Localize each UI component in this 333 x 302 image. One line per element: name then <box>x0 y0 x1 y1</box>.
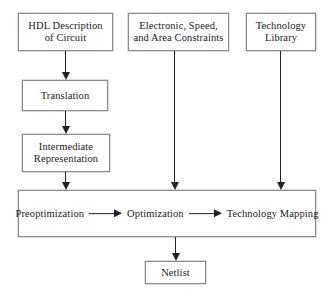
pipeline-stage-optimization: Optimization <box>126 208 185 220</box>
right-arrow-icon <box>89 209 122 218</box>
node-netlist-label: Netlist <box>158 267 193 279</box>
node-intermediate-representation: Intermediate Representation <box>22 134 110 172</box>
pipeline-stage-row: Preoptimization Optimization Technology … <box>19 208 315 220</box>
node-constraints-label: Electronic, Speed, and Area Constraints <box>130 20 226 44</box>
node-optimization-pipeline: Preoptimization Optimization Technology … <box>18 190 316 237</box>
node-hdl-description: HDL Description of Circuit <box>18 13 113 51</box>
node-netlist: Netlist <box>145 261 206 284</box>
pipeline-stage-preoptimization: Preoptimization <box>15 208 86 220</box>
node-constraints: Electronic, Speed, and Area Constraints <box>128 13 229 51</box>
flowchart-canvas: HDL Description of Circuit Electronic, S… <box>0 0 333 302</box>
node-translation: Translation <box>22 80 108 111</box>
node-intermediate-representation-label: Intermediate Representation <box>31 141 101 165</box>
node-hdl-description-label: HDL Description of Circuit <box>25 20 105 44</box>
pipeline-stage-technology-mapping: Technology Mapping <box>226 208 320 220</box>
node-technology-library-label: Technology Library <box>253 20 309 44</box>
right-arrow-icon <box>189 209 222 218</box>
node-translation-label: Translation <box>38 90 93 102</box>
node-technology-library: Technology Library <box>246 13 316 51</box>
